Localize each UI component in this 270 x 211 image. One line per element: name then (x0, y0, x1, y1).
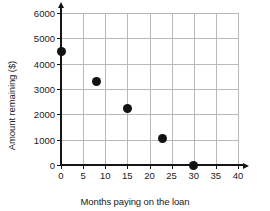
y-axis-tick-label: 3000 (34, 84, 55, 95)
y-axis-line (60, 7, 62, 165)
grid-line-vertical (172, 13, 173, 165)
y-axis-tick-label: 6000 (34, 8, 55, 19)
grid-line-vertical (127, 13, 128, 165)
y-axis-tick-label: 5000 (34, 33, 55, 44)
data-point (189, 161, 198, 170)
y-axis-arrow-icon (58, 2, 64, 8)
x-axis-tick-label: 15 (122, 170, 133, 181)
grid-line-vertical (105, 13, 106, 165)
x-axis-tick-label: 20 (144, 170, 155, 181)
x-axis-tick-label: 25 (166, 170, 177, 181)
grid-line-vertical (83, 13, 84, 165)
x-axis-tick-label: 10 (100, 170, 111, 181)
grid-line-vertical (150, 13, 151, 165)
plot-area: 0100020003000400050006000051015202530354… (61, 13, 238, 165)
x-axis-tick-label: 30 (188, 170, 199, 181)
data-point (123, 104, 132, 113)
y-axis-title: Amount remaining ($) (0, 0, 22, 211)
grid-line-vertical (194, 13, 195, 165)
grid-line-vertical (238, 13, 239, 165)
data-point (92, 77, 101, 86)
x-axis-tick-label: 5 (80, 170, 85, 181)
x-axis-tick-label: 0 (58, 170, 63, 181)
y-axis-tick-label: 1000 (34, 134, 55, 145)
data-point (158, 134, 167, 143)
y-axis-tick-label: 2000 (34, 109, 55, 120)
scatter-plot-figure: Amount remaining ($) Months paying on th… (0, 0, 270, 211)
x-axis-line (60, 164, 244, 166)
y-axis-tick-label: 0 (50, 160, 55, 171)
x-axis-tick-label: 35 (211, 170, 222, 181)
x-axis-title: Months paying on the loan (0, 196, 270, 207)
grid-line-vertical (216, 13, 217, 165)
data-point (57, 47, 66, 56)
x-axis-tick-label: 40 (233, 170, 244, 181)
x-axis-arrow-icon (243, 163, 249, 169)
y-axis-tick-label: 4000 (34, 58, 55, 69)
